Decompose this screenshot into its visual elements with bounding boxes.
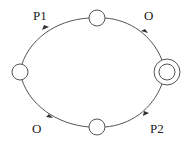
state-diagram: P1 O O P2 [0,0,193,143]
edge-label-p1: P1 [33,8,47,23]
edge-label-p2: P2 [150,121,164,136]
edge-label-o-top: O [144,8,153,23]
state-node-top [89,10,105,26]
arrow-icon [42,25,49,30]
edge-label-o-bottom: O [32,121,41,136]
edge-left-to-bottom [22,80,89,127]
edge-top-to-right [105,18,162,60]
arrow-icon [143,111,149,116]
accepting-state-inner [159,64,175,80]
state-node-left [12,64,28,80]
edge-left-to-top [22,18,89,64]
state-node-bottom [89,119,105,135]
